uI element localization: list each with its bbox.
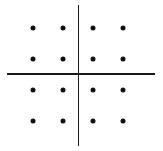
constellation-point bbox=[31, 57, 36, 62]
constellation-point bbox=[61, 26, 66, 31]
vertical-axis bbox=[78, 5, 80, 146]
constellation-point bbox=[121, 26, 126, 31]
constellation-point bbox=[91, 26, 96, 31]
constellation-point bbox=[121, 88, 126, 93]
constellation-point bbox=[121, 57, 126, 62]
constellation-point bbox=[91, 88, 96, 93]
constellation-point bbox=[61, 119, 66, 124]
constellation-point bbox=[61, 88, 66, 93]
constellation-point bbox=[91, 119, 96, 124]
horizontal-axis bbox=[7, 73, 155, 75]
constellation-point bbox=[31, 26, 36, 31]
constellation-point bbox=[61, 57, 66, 62]
constellation-point bbox=[91, 57, 96, 62]
constellation-point bbox=[121, 119, 126, 124]
constellation-point bbox=[31, 119, 36, 124]
constellation-point bbox=[31, 88, 36, 93]
